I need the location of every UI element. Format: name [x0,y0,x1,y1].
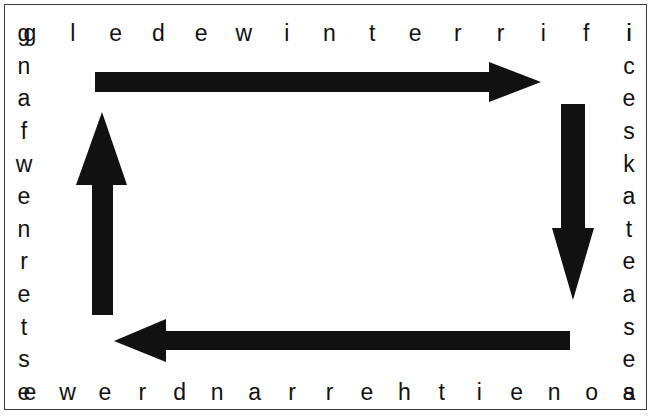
ring-letter-bottom_row-4: d [168,381,192,404]
ring-letter-right_column-2: e [617,87,641,110]
ring-letter-left_column-10: s [12,348,36,371]
ring-letter-top_row-1: l [61,22,85,45]
ring-letter-left_column-3: f [12,120,36,143]
ring-letter-bottom_row-15: o [580,381,604,404]
ring-letter-right_column-1: c [617,55,641,78]
ring-letter-top_row-4: e [189,22,213,45]
ring-letter-bottom_row-1: w [55,381,79,404]
right-arrow-down-icon [552,104,594,300]
ring-letter-bottom_row-5: n [205,381,229,404]
ring-letter-right_column-8: a [617,283,641,306]
ring-letter-right_column-10: e [617,348,641,371]
ring-letter-bottom_row-2: e [93,381,117,404]
ring-letter-bottom_row-6: a [243,381,267,404]
ring-letter-right_column-5: a [617,185,641,208]
ring-letter-left_column-8: e [12,283,36,306]
ring-letter-bottom_row-8: r [318,381,342,404]
ring-letter-right_column-6: t [617,218,641,241]
ring-letter-right_column-11: a [617,381,641,404]
ring-letter-top_row-11: r [489,22,513,45]
ring-letter-top_row-9: e [403,22,427,45]
ring-letter-bottom_row-13: e [505,381,529,404]
ring-letter-left_column-11: e [12,381,36,404]
ring-letter-top_row-13: f [574,22,598,45]
ring-letter-top_row-6: i [275,22,299,45]
ring-letter-left_column-9: t [12,316,36,339]
ring-letter-bottom_row-10: h [392,381,416,404]
ring-letter-top_row-2: e [104,22,128,45]
ring-letter-top_row-8: t [360,22,384,45]
ring-letter-left_column-5: e [12,185,36,208]
ring-letter-bottom_row-12: i [467,381,491,404]
ring-letter-right_column-0: i [617,22,641,45]
arrow-layer [0,0,652,416]
ring-letter-top_row-7: n [318,22,342,45]
ring-letter-top_row-3: d [146,22,170,45]
ring-letter-left_column-6: n [12,218,36,241]
ring-letter-right_column-9: s [617,316,641,339]
letter-ring-diagram: gledewinterrifiewerdnarrehtienosgnafwenr… [0,0,652,416]
ring-letter-right_column-7: e [617,250,641,273]
ring-letter-top_row-10: r [446,22,470,45]
ring-letter-bottom_row-9: e [355,381,379,404]
ring-letter-left_column-7: r [12,250,36,273]
ring-letter-left_column-2: a [12,87,36,110]
top-arrow-right-icon [95,62,541,102]
ring-letter-bottom_row-11: t [430,381,454,404]
bottom-arrow-left-icon [114,319,570,362]
ring-letter-left_column-0: g [12,22,36,45]
ring-letter-top_row-12: i [531,22,555,45]
ring-letter-right_column-4: k [617,153,641,176]
ring-letter-bottom_row-7: r [280,381,304,404]
ring-letter-bottom_row-3: r [130,381,154,404]
ring-letter-left_column-1: n [12,55,36,78]
ring-letter-bottom_row-14: n [542,381,566,404]
ring-letter-top_row-5: w [232,22,256,45]
left-arrow-up-icon [76,112,127,315]
ring-letter-left_column-4: w [12,153,36,176]
ring-letter-right_column-3: s [617,120,641,143]
